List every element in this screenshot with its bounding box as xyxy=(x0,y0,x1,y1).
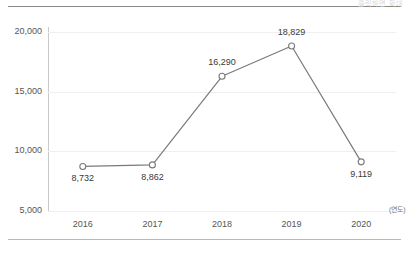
data-point-marker[interactable] xyxy=(219,73,225,79)
data-point-value-label: 16,290 xyxy=(187,57,257,67)
chart-figure: 클릭하면 확대 20,00015,00010,0005,000 20162017… xyxy=(0,0,417,253)
bottom-divider xyxy=(8,239,401,240)
data-point-value-label: 8,732 xyxy=(48,173,118,183)
data-point-value-label: 18,829 xyxy=(257,27,327,37)
data-point-marker[interactable] xyxy=(358,159,364,165)
line-series-svg xyxy=(0,0,417,253)
x-axis-unit-label: (연도) xyxy=(389,204,406,214)
data-point-value-label: 8,862 xyxy=(117,172,187,182)
data-point-marker[interactable] xyxy=(80,163,86,169)
data-point-value-label: 9,119 xyxy=(326,169,396,179)
data-point-marker[interactable] xyxy=(289,43,295,49)
data-point-marker[interactable] xyxy=(149,162,155,168)
